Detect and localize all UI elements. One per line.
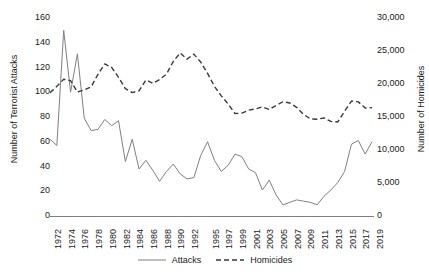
x-axis-tick-label: 2011 (321, 230, 330, 249)
y-axis-right-tick-label: 15,000 (377, 112, 405, 121)
y-axis-left-tick-label: 140 (35, 38, 50, 47)
legend-line-dashed-icon (215, 256, 245, 264)
y-axis-left-tick-label: 80 (40, 112, 50, 121)
legend-label-attacks: Attacks (172, 255, 202, 265)
y-axis-right-tick-label: 0 (377, 211, 382, 220)
x-axis-tick-label: 1986 (150, 229, 159, 249)
x-axis-tick-label: 2005 (280, 229, 289, 249)
y-axis-left-tick-label: 160 (35, 13, 50, 22)
x-axis-tick-label: 2009 (307, 229, 316, 249)
y-axis-right-tick-label: 30,000 (377, 13, 405, 22)
x-axis-tick-label: 2017 (362, 229, 371, 249)
y-axis-right-tick-label: 25,000 (377, 46, 405, 55)
x-axis-tick-label: 2007 (294, 229, 303, 249)
x-axis-tick-label: 1972 (54, 229, 63, 249)
x-axis-tick-label: 1984 (136, 229, 145, 249)
y-axis-left-tick-label: 40 (40, 162, 50, 171)
x-axis-tick-label: 1992 (191, 229, 200, 249)
y-axis-right-title: Number of Homicides (416, 24, 426, 194)
x-axis-tick-label: 1978 (95, 229, 104, 249)
x-axis-tick-label: 1982 (123, 229, 132, 249)
x-axis-tick-label: 2015 (349, 229, 358, 249)
y-axis-right-tick-label: 10,000 (377, 145, 405, 154)
legend-item-homicides: Homicides (215, 255, 292, 265)
y-axis-right-tick-label: 20,000 (377, 79, 405, 88)
x-axis-tick-label: 2001 (253, 229, 262, 249)
legend-item-attacks: Attacks (137, 255, 202, 265)
x-axis-tick-label: 1974 (68, 229, 77, 249)
y-axis-left-tick-label: 120 (35, 63, 50, 72)
y-axis-left-tick-label: 60 (40, 137, 50, 146)
y-axis-right-tick-label: 5,000 (377, 178, 400, 187)
x-axis-tick-label: 1988 (164, 229, 173, 249)
x-axis-tick-label: 2019 (376, 229, 385, 249)
legend-line-solid-icon (137, 256, 167, 264)
plot-area (50, 18, 372, 216)
x-axis-tick-label: 2003 (266, 229, 275, 249)
x-axis-tick-label: 1997 (225, 229, 234, 249)
chart-svg (50, 18, 374, 218)
chart-figure: Number of Terrorist Attacks Number of Ho… (0, 0, 429, 279)
x-axis-tick-label: 1999 (239, 229, 248, 249)
chart-legend: Attacks Homicides (0, 255, 429, 265)
y-axis-left-tick-label: 100 (35, 87, 50, 96)
x-axis-tick-label: 1990 (177, 229, 186, 249)
y-axis-left-tick-label: 20 (40, 186, 50, 195)
x-axis-tick-label: 1976 (81, 229, 90, 249)
x-axis-tick-label: 1980 (109, 229, 118, 249)
x-axis-tick-label: 1995 (212, 229, 221, 249)
x-axis-tick-label: 2013 (335, 229, 344, 249)
y-axis-left-title: Number of Terrorist Attacks (9, 24, 19, 194)
legend-label-homicides: Homicides (250, 255, 292, 265)
series-line-homicides (50, 53, 372, 122)
